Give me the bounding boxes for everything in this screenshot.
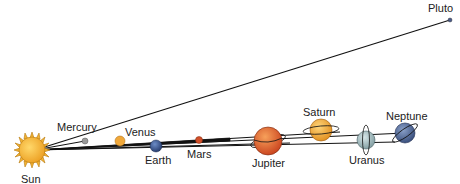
earth-planet [150, 140, 162, 152]
uranus: Uranus [349, 125, 385, 166]
venus-planet [115, 136, 125, 146]
jupiter: Jupiter [249, 127, 286, 169]
neptune: Neptune [386, 110, 428, 145]
uranus-planet [357, 131, 375, 149]
saturn: Saturn [303, 106, 340, 141]
sun: Sun [14, 132, 50, 184]
uranus-label: Uranus [349, 154, 385, 166]
earth-label: Earth [145, 154, 171, 166]
mercury-label: Mercury [57, 121, 97, 133]
sun-disc [19, 137, 45, 163]
mercury-planet [82, 138, 88, 144]
mars-planet [196, 137, 203, 144]
mars-label: Mars [187, 148, 212, 160]
solar-system-diagram: Sun Mercury Venus Earth Mars Jupiter Sat… [0, 0, 460, 184]
jupiter-label: Jupiter [252, 157, 285, 169]
pluto-planet [448, 18, 452, 22]
saturn-planet [310, 119, 332, 141]
pluto-orbit-line [35, 20, 450, 150]
orbit-lines [35, 20, 450, 150]
sun-label: Sun [21, 173, 41, 184]
saturn-label: Saturn [303, 106, 335, 118]
neptune-label: Neptune [386, 110, 428, 122]
venus-label: Venus [125, 126, 156, 138]
pluto-label: Pluto [428, 2, 453, 14]
